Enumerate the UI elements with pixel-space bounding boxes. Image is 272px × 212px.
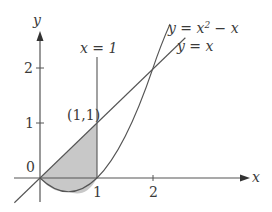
intersection-point-label: (1,1) xyxy=(67,108,100,122)
y-axis-arrow-icon xyxy=(37,31,44,41)
x-tick-label-1: 1 xyxy=(93,185,102,199)
diagram-figure: y x 2 1 0 1 2 x = 1 y = x2 − x y = x (1,… xyxy=(0,0,272,212)
parabola-label-base: y = x xyxy=(168,20,204,36)
vertical-line-label: x = 1 xyxy=(80,41,117,55)
y-tick-label-1: 1 xyxy=(25,116,34,130)
y-tick-label-2: 2 xyxy=(24,61,33,75)
x-axis-label: x xyxy=(252,170,260,184)
parabola-label-suffix: − x xyxy=(210,20,239,36)
shaded-region xyxy=(40,123,97,193)
x-axis-arrow-icon xyxy=(240,175,250,182)
line-label: y = x xyxy=(177,39,213,53)
origin-label: 0 xyxy=(26,160,35,174)
parabola-label: y = x2 − x xyxy=(168,21,239,35)
x-tick-label-2: 2 xyxy=(149,185,158,199)
y-axis-label: y xyxy=(33,13,41,27)
